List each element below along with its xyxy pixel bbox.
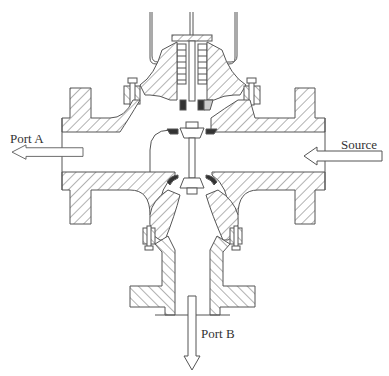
valve-stem: [189, 41, 195, 101]
upper-seat-seal-left: [167, 129, 178, 134]
bonnet-right: [207, 42, 246, 100]
upper-seal-left: [180, 100, 186, 110]
port-b-arrow: [184, 296, 200, 370]
bonnet-left: [140, 42, 177, 100]
upper-guide: [204, 100, 213, 110]
port-a-arrow: [12, 145, 83, 159]
port-b-label: Port B: [201, 326, 235, 341]
chamber-wall: [150, 130, 170, 172]
valve-plug: [180, 122, 204, 194]
port-a-label: Port A: [10, 131, 44, 146]
upper-seal-right: [198, 100, 204, 110]
lower-bolt-right: [230, 226, 242, 250]
upper-seat-seal-right: [206, 129, 217, 134]
three-way-valve-diagram: Port A Source Port B: [0, 0, 389, 376]
lower-bolt-left: [143, 226, 155, 250]
source-label: Source: [341, 137, 377, 152]
bonnet-plate: [172, 35, 212, 41]
